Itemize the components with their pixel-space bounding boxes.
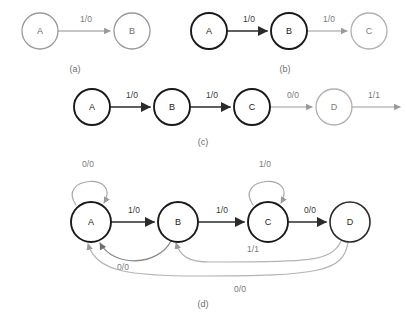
panel-caption-b: (b) bbox=[280, 64, 291, 74]
panel-d: 0/01/01/01/00/00/01/10/0ABCD(d) bbox=[71, 159, 370, 309]
edge-label-c-C-to-D: 0/0 bbox=[287, 90, 299, 100]
state-label-b-B: B bbox=[286, 26, 292, 36]
edge-label-b-B-to-C: 1/0 bbox=[323, 14, 335, 24]
edge-label-d-A-to-A: 0/0 bbox=[82, 159, 94, 169]
state-label-d-C: C bbox=[265, 217, 272, 227]
edge-label-d-D-to-B: 1/1 bbox=[247, 244, 259, 254]
state-label-c-A: A bbox=[89, 102, 95, 112]
state-label-b-A: A bbox=[206, 26, 212, 36]
edge-label-d-B-to-C: 1/0 bbox=[216, 205, 228, 215]
state-machine-figure: 1/0AB(a)1/01/0ABC(b)1/01/00/01/1ABCD(c)0… bbox=[0, 0, 407, 326]
edge-label-d-D-to-A: 0/0 bbox=[234, 284, 246, 294]
edge-label-b-A-to-B: 1/0 bbox=[243, 14, 255, 24]
state-label-d-D: D bbox=[347, 217, 354, 227]
panel-caption-d: (d) bbox=[198, 299, 209, 309]
edge-label-c-A-to-B: 1/0 bbox=[126, 90, 138, 100]
edge-label-c-D-to-out: 1/1 bbox=[368, 90, 380, 100]
state-label-a-B: B bbox=[129, 26, 135, 36]
state-label-a-A: A bbox=[37, 26, 43, 36]
state-label-b-C: C bbox=[366, 26, 373, 36]
panels-root: 1/0AB(a)1/01/0ABC(b)1/01/00/01/1ABCD(c)0… bbox=[22, 13, 400, 309]
panel-caption-a: (a) bbox=[70, 64, 81, 74]
edge-label-c-B-to-C: 1/0 bbox=[206, 90, 218, 100]
state-label-c-B: B bbox=[169, 102, 175, 112]
edge-label-a-A-to-B: 1/0 bbox=[80, 14, 92, 24]
panel-a: 1/0AB(a) bbox=[22, 13, 150, 74]
edge-d-B-to-A[interactable] bbox=[100, 241, 171, 261]
state-label-d-A: A bbox=[88, 217, 94, 227]
state-label-c-D: D bbox=[331, 102, 338, 112]
edge-label-d-C-to-C: 1/0 bbox=[259, 159, 271, 169]
state-label-d-B: B bbox=[175, 217, 181, 227]
edge-label-d-A-to-B: 1/0 bbox=[128, 205, 140, 215]
state-label-c-C: C bbox=[249, 102, 256, 112]
panel-b: 1/01/0ABC(b) bbox=[191, 13, 387, 74]
panel-caption-c: (c) bbox=[198, 137, 209, 147]
panel-c: 1/01/00/01/1ABCD(c) bbox=[74, 89, 400, 147]
edge-label-d-C-to-D: 0/0 bbox=[304, 205, 316, 215]
